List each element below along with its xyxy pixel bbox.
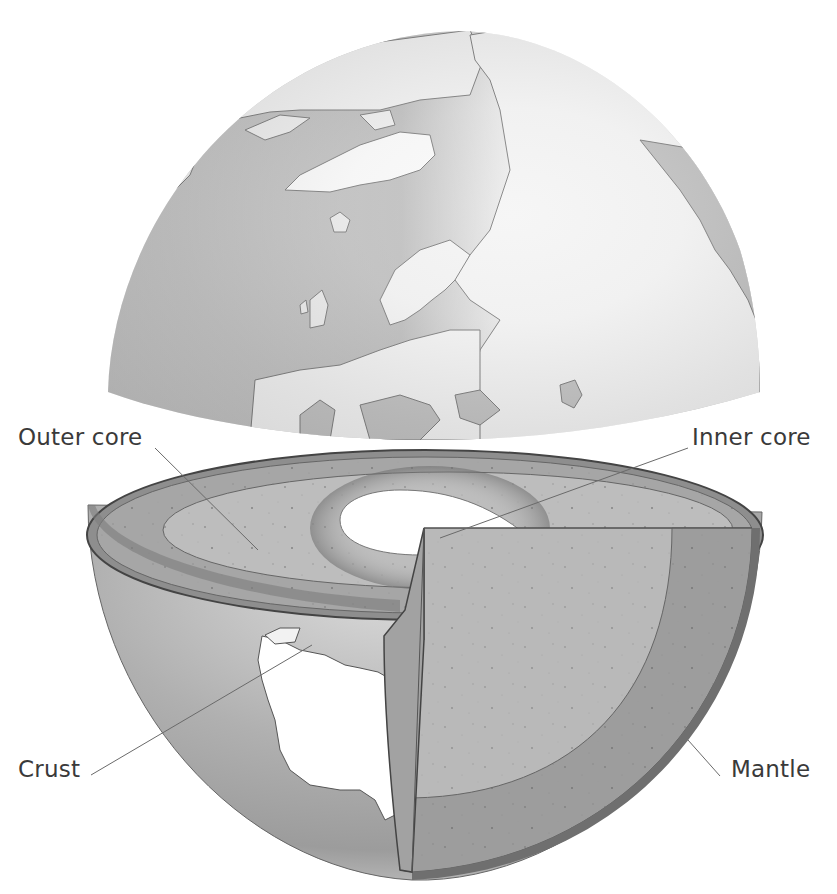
label-mantle: Mantle <box>731 756 810 782</box>
label-inner-core: Inner core <box>692 424 811 450</box>
label-outer-core: Outer core <box>18 424 142 450</box>
lower-hemisphere <box>87 450 763 880</box>
mantle-leader <box>688 740 720 776</box>
upper-hemisphere <box>80 30 760 440</box>
label-crust: Crust <box>18 756 80 782</box>
